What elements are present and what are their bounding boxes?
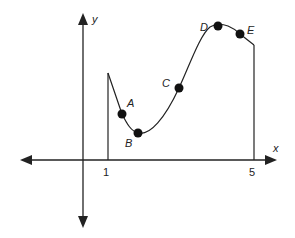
down-arrow-icon [78,216,88,228]
tick-label-5: 5 [249,166,255,178]
left-arrow-icon [20,155,32,165]
point-d: D [200,21,223,33]
up-arrow-icon [78,13,88,25]
x-axis-label: x [272,142,279,154]
right-arrow-icon [265,155,277,165]
y-axis [78,13,88,228]
point-c: C [162,77,184,93]
y-axis-label: y [91,13,99,25]
point-e: E [236,24,256,39]
function-graph: y x 1 5 A B C D E [0,0,295,238]
svg-text:E: E [247,24,255,36]
svg-text:C: C [162,77,170,89]
tick-label-1: 1 [103,166,109,178]
point-b: B [125,129,143,150]
svg-text:B: B [125,137,132,149]
svg-text:A: A [126,97,134,109]
svg-text:D: D [200,21,208,33]
x-axis [20,155,277,165]
